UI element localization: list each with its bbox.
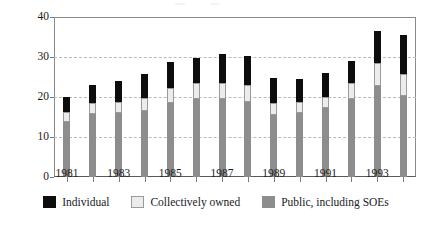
bar-segment-individual: [89, 85, 96, 103]
y-tick-mark: [50, 17, 54, 18]
bar-1988: [244, 56, 251, 177]
bar-segment-collective: [244, 85, 251, 102]
bar-segment-individual: [400, 35, 407, 74]
x-tick-label: 1981: [55, 168, 78, 180]
y-tick-label: 10: [38, 131, 50, 143]
x-tick-mark: [300, 177, 301, 182]
x-tick-label: 1987: [211, 168, 234, 180]
bar-segment-individual: [219, 54, 226, 84]
y-tick-mark: [50, 137, 54, 138]
x-tick-mark: [196, 177, 197, 182]
y-tick-label: 20: [38, 91, 50, 103]
chart-legend: IndividualCollectively ownedPublic, incl…: [0, 196, 432, 208]
x-tick-label: 1985: [159, 168, 182, 180]
bar-1994: [400, 35, 407, 177]
bar-1986: [193, 58, 200, 177]
x-tick-label: 1983: [107, 168, 130, 180]
bar-1983: [115, 81, 122, 177]
bar-segment-individual: [374, 31, 381, 63]
collective-swatch: [131, 196, 144, 208]
x-tick-label: 1991: [314, 168, 337, 180]
y-tick-mark: [50, 97, 54, 98]
bar-1981: [63, 97, 70, 177]
bar-segment-public: [89, 114, 96, 177]
page-artifact: [210, 3, 220, 5]
bar-segment-collective: [296, 102, 303, 113]
bar-segment-public: [400, 96, 407, 177]
x-tick-label: 1993: [366, 168, 389, 180]
bar-segment-collective: [219, 83, 226, 99]
bar-segment-individual: [141, 74, 148, 98]
bar-segment-collective: [193, 83, 200, 99]
legend-item: Individual: [43, 196, 109, 208]
legend-label: Public, including SOEs: [281, 196, 389, 208]
legend-label: Individual: [62, 196, 109, 208]
public-swatch: [262, 196, 275, 208]
bar-segment-collective: [322, 97, 329, 108]
y-tick-label: 0: [43, 171, 49, 183]
bar-segment-public: [193, 99, 200, 177]
y-tick-label: 40: [38, 11, 50, 23]
bar-segment-public: [141, 111, 148, 177]
bar-1985: [167, 62, 174, 177]
bar-segment-collective: [63, 112, 70, 122]
bar-segment-collective: [141, 98, 148, 111]
bar-segment-collective: [400, 74, 407, 96]
chart-figure: Percentage 010203040 1981198319851987198…: [0, 0, 432, 227]
bar-segment-individual: [322, 73, 329, 97]
bar-1991: [322, 73, 329, 177]
bar-segment-public: [348, 99, 355, 177]
bar-segment-individual: [167, 62, 174, 88]
bar-1982: [89, 85, 96, 177]
bar-segment-public: [219, 99, 226, 177]
bar-segment-public: [244, 102, 251, 177]
bar-segment-collective: [374, 63, 381, 86]
y-tick-label: 30: [38, 51, 50, 63]
plot-area: 010203040: [54, 17, 416, 177]
x-tick-mark: [351, 177, 352, 182]
x-tick-mark: [145, 177, 146, 182]
legend-item: Public, including SOEs: [262, 196, 389, 208]
bar-segment-individual: [348, 61, 355, 82]
bar-segment-collective: [115, 102, 122, 113]
x-tick-label: 1989: [262, 168, 285, 180]
bar-segment-individual: [296, 79, 303, 102]
bar-segment-individual: [270, 78, 277, 103]
bar-1987: [219, 54, 226, 177]
bar-segment-collective: [348, 83, 355, 100]
bar-segment-public: [167, 103, 174, 177]
x-tick-mark: [93, 177, 94, 182]
bar-1984: [141, 74, 148, 177]
page-artifact: [175, 3, 185, 5]
bar-segment-individual: [244, 56, 251, 85]
gridline-30: [54, 57, 416, 58]
bar-segment-collective: [270, 103, 277, 116]
gridline-20: [54, 97, 416, 98]
bar-1992: [348, 61, 355, 177]
bar-segment-collective: [89, 103, 96, 114]
bar-segment-individual: [115, 81, 122, 102]
bar-segment-individual: [193, 58, 200, 84]
legend-item: Collectively owned: [131, 196, 240, 208]
bar-segment-individual: [63, 97, 70, 112]
bar-segment-public: [296, 113, 303, 177]
y-tick-mark: [50, 177, 54, 178]
x-tick-mark: [248, 177, 249, 182]
y-tick-mark: [50, 57, 54, 58]
bar-segment-collective: [167, 88, 174, 103]
gridline-10: [54, 137, 416, 138]
bar-1990: [296, 79, 303, 177]
legend-label: Collectively owned: [150, 196, 240, 208]
bar-1993: [374, 31, 381, 177]
x-tick-mark: [403, 177, 404, 182]
individual-swatch: [43, 196, 56, 208]
bar-1989: [270, 78, 277, 177]
bar-segment-public: [374, 86, 381, 177]
